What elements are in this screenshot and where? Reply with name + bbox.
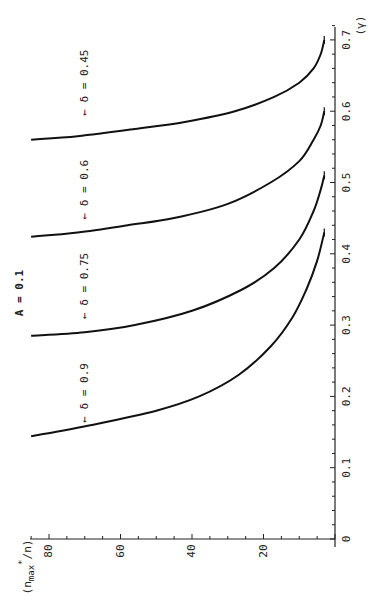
n-tick-label: 40 bbox=[185, 544, 198, 557]
n-tick-label: 60 bbox=[114, 544, 127, 557]
gamma-tick-label: 0.7 bbox=[340, 30, 353, 50]
axes: 00.10.20.30.40.50.60.7(γ)20406080(nmax*/… bbox=[16, 16, 367, 595]
series-label: ← δ = 0.45 bbox=[78, 50, 91, 116]
labels: ← δ = 0.9← δ = 0.75← δ = 0.6← δ = 0.45A … bbox=[13, 50, 90, 423]
series-label: ← δ = 0.75 bbox=[78, 253, 91, 319]
curve-delta-0.6 bbox=[31, 111, 324, 237]
gamma-tick-label: 0.5 bbox=[340, 173, 353, 193]
gamma-axis-label: (γ) bbox=[354, 16, 367, 36]
series-label: ← δ = 0.9 bbox=[78, 363, 91, 423]
curve-delta-0.75 bbox=[31, 175, 324, 335]
gamma-tick-label: 0 bbox=[340, 536, 353, 543]
curves bbox=[31, 36, 324, 436]
chart: 00.10.20.30.40.50.60.7(γ)20406080(nmax*/… bbox=[0, 0, 371, 610]
gamma-tick-label: 0.4 bbox=[340, 243, 353, 263]
n-tick-label: 80 bbox=[42, 544, 55, 557]
gamma-tick-label: 0.2 bbox=[340, 386, 353, 406]
n-axis-label: (nmax*/n) bbox=[16, 540, 35, 595]
gamma-tick-label: 0.3 bbox=[340, 315, 353, 335]
chart-title: A = 0.1 bbox=[13, 269, 26, 316]
curve-delta-0.45 bbox=[31, 40, 324, 140]
n-tick-label: 20 bbox=[257, 544, 270, 557]
gamma-tick-label: 0.6 bbox=[340, 101, 353, 121]
series-label: ← δ = 0.6 bbox=[78, 160, 91, 220]
gamma-tick-label: 0.1 bbox=[340, 458, 353, 478]
